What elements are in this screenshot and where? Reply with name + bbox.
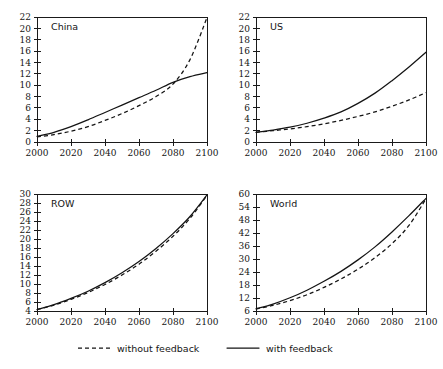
y-tick-label: 20 (239, 24, 251, 34)
y-tick-label: 16 (20, 46, 32, 56)
y-tick-label: 18 (239, 280, 251, 290)
y-tick-label: 8 (25, 288, 31, 298)
x-tick-label: 2060 (128, 317, 151, 327)
y-tick-label: 2 (25, 126, 31, 136)
x-tick-label: 2040 (94, 317, 117, 327)
x-tick-label: 2060 (347, 148, 370, 158)
y-tick-label: 10 (20, 80, 32, 90)
y-tick-label: 12 (239, 293, 250, 303)
x-tick-label: 2020 (279, 148, 302, 158)
panel-title-label: China (51, 21, 78, 32)
x-tick-label: 2100 (196, 148, 219, 158)
y-tick-label: 14 (20, 261, 32, 271)
y-tick-label: 48 (239, 215, 251, 225)
y-tick-label: 8 (25, 92, 31, 102)
y-tick-label: 24 (239, 267, 251, 277)
x-tick-label: 2040 (313, 317, 336, 327)
y-tick-label: 0 (244, 137, 250, 147)
y-tick-label: 42 (239, 228, 250, 238)
x-tick-label: 2100 (415, 148, 438, 158)
multi-panel-line-chart-figure: 0246810121416182022200020202040206020802… (0, 0, 443, 369)
x-tick-label: 2080 (162, 148, 185, 158)
y-tick-label: 30 (20, 189, 32, 199)
y-tick-label: 22 (20, 225, 31, 235)
y-tick-label: 28 (20, 198, 32, 208)
y-tick-label: 54 (239, 202, 251, 212)
y-tick-label: 18 (20, 35, 32, 45)
y-tick-label: 10 (20, 279, 32, 289)
panel-title-label: US (270, 21, 283, 32)
x-tick-label: 2020 (60, 148, 83, 158)
legend-entry-label: without feedback (117, 343, 200, 354)
y-tick-label: 20 (20, 234, 32, 244)
x-tick-label: 2100 (415, 317, 438, 327)
x-tick-label: 2080 (162, 317, 185, 327)
figure-background (0, 0, 443, 369)
x-tick-label: 2060 (347, 317, 370, 327)
x-tick-label: 2080 (381, 317, 404, 327)
panel-title-label: World (270, 198, 297, 209)
y-tick-label: 36 (239, 241, 251, 251)
x-tick-label: 2040 (94, 148, 117, 158)
x-tick-label: 2100 (196, 317, 219, 327)
panel-title-label: ROW (51, 198, 75, 209)
y-tick-label: 10 (239, 80, 251, 90)
x-tick-label: 2000 (245, 317, 268, 327)
y-tick-label: 16 (239, 46, 251, 56)
y-tick-label: 20 (20, 24, 32, 34)
y-tick-label: 18 (239, 35, 251, 45)
y-tick-label: 4 (25, 306, 31, 316)
y-tick-label: 14 (239, 58, 251, 68)
x-tick-label: 2000 (26, 317, 49, 327)
x-tick-label: 2000 (245, 148, 268, 158)
y-tick-label: 12 (20, 69, 31, 79)
y-tick-label: 18 (20, 243, 32, 253)
x-tick-label: 2000 (26, 148, 49, 158)
y-tick-label: 26 (20, 207, 32, 217)
y-tick-label: 6 (25, 297, 31, 307)
y-tick-label: 2 (244, 126, 250, 136)
y-tick-label: 30 (239, 254, 251, 264)
y-tick-label: 60 (239, 189, 251, 199)
legend-entry-label: with feedback (266, 343, 333, 354)
x-tick-label: 2020 (279, 317, 302, 327)
y-tick-label: 16 (20, 252, 32, 262)
y-tick-label: 12 (239, 69, 250, 79)
y-tick-label: 24 (20, 216, 32, 226)
x-tick-label: 2040 (313, 148, 336, 158)
y-tick-label: 0 (25, 137, 31, 147)
x-tick-label: 2060 (128, 148, 151, 158)
x-tick-label: 2020 (60, 317, 83, 327)
y-tick-label: 4 (244, 114, 250, 124)
y-tick-label: 8 (244, 92, 250, 102)
y-tick-label: 6 (25, 103, 31, 113)
y-tick-label: 12 (20, 270, 31, 280)
y-tick-label: 6 (244, 103, 250, 113)
y-tick-label: 6 (244, 306, 250, 316)
y-tick-label: 22 (239, 12, 250, 22)
x-tick-label: 2080 (381, 148, 404, 158)
y-tick-label: 22 (20, 12, 31, 22)
y-tick-label: 14 (20, 58, 32, 68)
y-tick-label: 4 (25, 114, 31, 124)
